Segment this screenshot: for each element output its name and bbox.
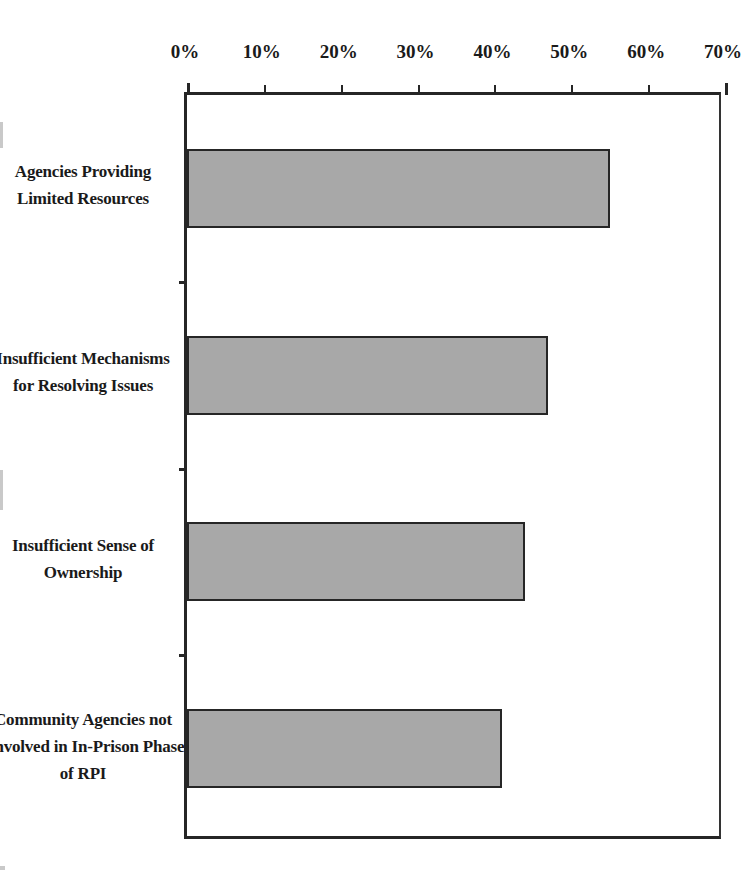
x-axis-tick-mark xyxy=(264,85,266,95)
bar-agencies-providing-limited-resources xyxy=(187,149,610,228)
category-separator-tick xyxy=(179,468,187,471)
bar-community-agencies-not-involved-in-in-prison-phase-of-rpi xyxy=(187,709,502,788)
category-separator-tick xyxy=(179,654,187,657)
x-axis-tick-mark xyxy=(418,85,420,95)
category-label-line: Insufficient Sense of xyxy=(0,532,178,559)
category-label-line: Limited Resources xyxy=(0,185,178,212)
x-axis-tick-label: 60% xyxy=(627,40,665,64)
x-axis-tick-label: 0% xyxy=(171,40,200,64)
category-label-line: for Resolving Issues xyxy=(0,372,178,399)
category-label-insufficient-sense-of-ownership: Insufficient Sense ofOwnership xyxy=(0,532,178,586)
category-separator-tick xyxy=(179,281,187,284)
category-label-line: Ownership xyxy=(0,559,178,586)
category-axis-labels: Agencies ProvidingLimited ResourcesInsuf… xyxy=(0,92,184,839)
x-axis-tick-labels: 0%10%20%30%40%50%60%70% xyxy=(0,40,751,70)
category-label-agencies-providing-limited-resources: Agencies ProvidingLimited Resources xyxy=(0,158,178,212)
category-label-line: Community Agencies not xyxy=(0,705,178,732)
x-axis-tick-mark xyxy=(648,85,650,95)
plot-area xyxy=(184,92,721,839)
x-axis-tick-mark xyxy=(494,85,496,95)
x-axis-tick-label: 10% xyxy=(243,40,281,64)
bar-insufficient-sense-of-ownership xyxy=(187,522,525,601)
x-axis-tick-label: 20% xyxy=(320,40,358,64)
x-axis-tick-label: 70% xyxy=(704,40,742,64)
x-axis-tick-mark xyxy=(341,85,343,95)
bar-insufficient-mechanisms-for-resolving-issues xyxy=(187,336,548,415)
category-label-line: Agencies Providing xyxy=(0,158,178,185)
x-axis-tick-mark xyxy=(571,85,573,95)
category-label-line: Insufficient Mechanisms xyxy=(0,345,178,372)
x-axis-tick-mark xyxy=(187,83,190,95)
scan-artifact xyxy=(0,866,5,870)
category-label-line: of RPI xyxy=(0,759,178,786)
category-label-insufficient-mechanisms-for-resolving-issues: Insufficient Mechanismsfor Resolving Iss… xyxy=(0,345,178,399)
category-label-community-agencies-not-involved-in-in-prison-phase-of-rpi: Community Agencies notInvolved in In-Pri… xyxy=(0,705,178,786)
bar-chart: 0%10%20%30%40%50%60%70% Agencies Providi… xyxy=(0,0,751,884)
category-label-line: Involved in In-Prison Phase xyxy=(0,732,178,759)
x-axis-tick-label: 50% xyxy=(550,40,588,64)
x-axis-tick-mark xyxy=(725,83,728,95)
x-axis-tick-label: 40% xyxy=(473,40,511,64)
x-axis-tick-label: 30% xyxy=(397,40,435,64)
